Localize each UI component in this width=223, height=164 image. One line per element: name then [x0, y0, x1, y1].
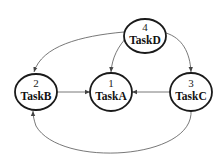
node-taska-number: 1	[108, 77, 114, 89]
edge-taskd-to-taskb	[34, 32, 124, 72]
node-taskd-label: TaskD	[129, 34, 161, 46]
edge-taskc-to-taskb	[33, 110, 191, 153]
task-dependency-graph: 4 TaskD 2 TaskB 1 TaskA 3 TaskC	[0, 0, 223, 164]
node-taskd-number: 4	[142, 21, 148, 33]
node-taskb-number: 2	[33, 77, 39, 89]
node-taskd[interactable]: 4 TaskD	[124, 19, 166, 53]
edge-taskd-to-taskc	[166, 33, 191, 72]
node-taskb[interactable]: 2 TaskB	[15, 74, 57, 110]
node-taska-label: TaskA	[95, 90, 127, 102]
node-taska[interactable]: 1 TaskA	[90, 73, 132, 111]
node-taskc-label: TaskC	[175, 90, 207, 102]
node-taskc-number: 3	[188, 77, 194, 89]
node-taskc[interactable]: 3 TaskC	[170, 73, 212, 111]
node-taskb-label: TaskB	[21, 90, 52, 102]
